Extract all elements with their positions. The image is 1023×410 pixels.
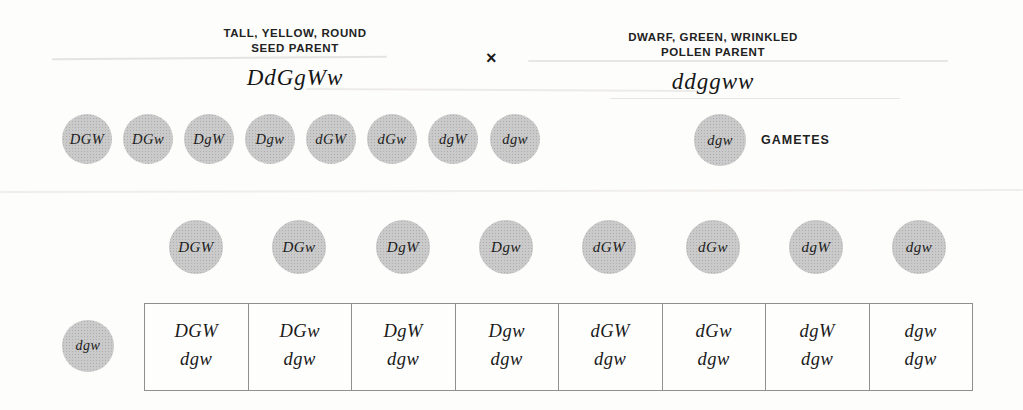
offspring-gamete-circle: dgW — [789, 220, 843, 274]
seed-gamete-circle: dGw — [367, 114, 417, 164]
seed-gamete-circle: DGW — [62, 114, 112, 164]
punnett-row-gamete-circle: dgw — [62, 320, 114, 372]
seed-parent-genotype: DdGgWw — [175, 65, 415, 91]
punnett-cell: Dgw dgw — [455, 304, 559, 390]
cell-bottom-genotype: dgw — [559, 345, 662, 373]
seed-parent-header: TALL, YELLOW, ROUND SEED PARENT DdGgWw — [175, 26, 415, 91]
seed-gamete-circle: DgW — [184, 114, 234, 164]
cell-top-genotype: dGW — [559, 317, 662, 345]
offspring-gamete-circle: dGw — [686, 220, 740, 274]
offspring-gamete-circle: Dgw — [479, 220, 533, 274]
seed-parent-traits: TALL, YELLOW, ROUND — [175, 26, 415, 41]
cell-bottom-genotype: dgw — [456, 345, 559, 373]
seed-gamete-circle: Dgw — [245, 114, 295, 164]
offspring-gamete-circle: dgw — [892, 220, 946, 274]
cell-bottom-genotype: dgw — [145, 345, 248, 373]
offspring-gamete-circle: DGW — [169, 220, 223, 274]
scan-artifact — [0, 189, 1023, 193]
cell-bottom-genotype: dgw — [766, 345, 869, 373]
pollen-parent-traits: DWARF, GREEN, WRINKLED — [593, 30, 833, 45]
seed-gamete-circle: DGw — [123, 114, 173, 164]
offspring-gamete-circle: DgW — [376, 220, 430, 274]
cell-bottom-genotype: dgw — [249, 345, 352, 373]
seed-parent-role: SEED PARENT — [175, 41, 415, 56]
pollen-parent-genotype: ddggww — [593, 69, 833, 95]
cell-top-genotype: dGw — [663, 317, 766, 345]
cell-top-genotype: DGW — [145, 317, 248, 345]
punnett-cell: dgW dgw — [765, 304, 869, 390]
seed-gamete-circle: dgW — [428, 114, 478, 164]
punnett-strip: DGW dgw DGw dgw DgW dgw Dgw dgw dGW dgw … — [144, 303, 973, 391]
cell-top-genotype: DgW — [352, 317, 455, 345]
pollen-parent-role: POLLEN PARENT — [593, 45, 833, 60]
cell-top-genotype: DGw — [249, 317, 352, 345]
cell-top-genotype: dgW — [766, 317, 869, 345]
punnett-cell: dGw dgw — [662, 304, 766, 390]
cell-bottom-genotype: dgw — [870, 345, 973, 373]
gametes-label: GAMETES — [761, 133, 830, 147]
punnett-cell: DGW dgw — [145, 304, 248, 390]
scan-artifact — [610, 98, 900, 99]
punnett-cell: DgW dgw — [351, 304, 455, 390]
seed-gamete-circle: dgw — [490, 114, 540, 164]
seed-gamete-circle: dGW — [306, 114, 356, 164]
pollen-gamete-circle: dgw — [694, 114, 746, 166]
cell-bottom-genotype: dgw — [352, 345, 455, 373]
offspring-gamete-circle: dGW — [582, 220, 636, 274]
cross-symbol: × — [486, 48, 497, 69]
trihybrid-testcross-diagram: TALL, YELLOW, ROUND SEED PARENT DdGgWw ×… — [0, 0, 1023, 410]
punnett-cell: DGw dgw — [248, 304, 352, 390]
cell-top-genotype: Dgw — [456, 317, 559, 345]
cell-top-genotype: dgw — [870, 317, 973, 345]
punnett-cell: dgw dgw — [869, 304, 973, 390]
pollen-parent-header: DWARF, GREEN, WRINKLED POLLEN PARENT ddg… — [593, 30, 833, 95]
cell-bottom-genotype: dgw — [663, 345, 766, 373]
punnett-cell: dGW dgw — [558, 304, 662, 390]
offspring-gamete-circle: DGw — [272, 220, 326, 274]
